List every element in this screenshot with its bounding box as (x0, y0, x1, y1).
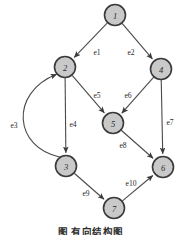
edge-label-e2: e2 (127, 48, 134, 57)
node-label-3: 3 (63, 162, 68, 172)
figure-caption: 图 有向结构图 (0, 224, 182, 235)
node-4: 4 (151, 59, 172, 80)
node-5: 5 (103, 113, 124, 134)
edge-label-e6: e6 (124, 91, 131, 100)
edge-label-e3: e3 (10, 121, 17, 130)
node-7: 7 (104, 198, 125, 219)
node-2: 2 (55, 57, 76, 78)
edge-e7 (161, 80, 163, 154)
edge-labels-layer: e1e2e3e4e5e6e7e8e9e10 (10, 48, 173, 198)
figure-container: 1234567 e1e2e3e4e5e6e7e8e9e10 图 有向结构图 (0, 0, 182, 235)
edge-label-e9: e9 (82, 189, 89, 198)
node-label-1: 1 (113, 11, 117, 21)
edge-e4 (65, 78, 66, 153)
node-1: 1 (105, 5, 126, 26)
nodes-layer: 1234567 (55, 5, 174, 219)
edge-e1 (74, 23, 107, 57)
edge-label-e7: e7 (166, 118, 173, 127)
figure-caption-row: 图 有向结构图 (0, 224, 182, 235)
node-label-5: 5 (111, 119, 115, 129)
edge-label-e8: e8 (119, 141, 126, 150)
node-3: 3 (56, 156, 77, 177)
edge-label-e1: e1 (93, 48, 100, 57)
edge-e3 (23, 74, 60, 157)
edge-label-e5: e5 (93, 91, 100, 100)
node-6: 6 (153, 157, 174, 178)
edge-label-e10: e10 (126, 179, 137, 188)
edge-label-e4: e4 (69, 120, 76, 129)
directed-graph-canvas: 1234567 e1e2e3e4e5e6e7e8e9e10 (0, 0, 182, 235)
